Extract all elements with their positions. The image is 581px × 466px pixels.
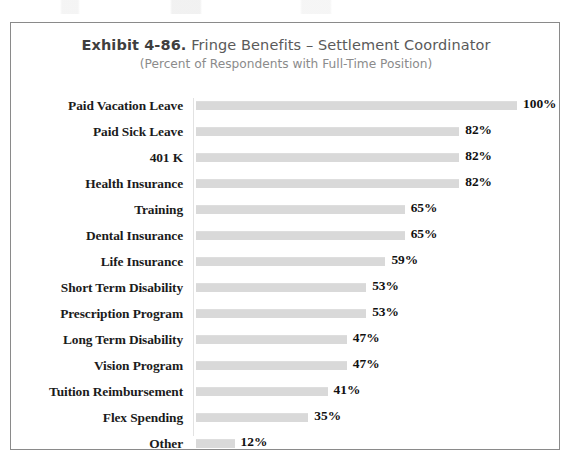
bar-row: 401 K82% xyxy=(11,145,561,171)
bar-row: Dental Insurance65% xyxy=(11,223,561,249)
bar-fill xyxy=(196,127,459,136)
bar-row: Health Insurance82% xyxy=(11,171,561,197)
bar-category-label: Life Insurance xyxy=(11,254,189,270)
bar-fill xyxy=(196,205,405,214)
bar-value-label: 12% xyxy=(241,434,268,450)
scan-artifact-strip xyxy=(0,0,581,14)
bar-row: Short Term Disability53% xyxy=(11,275,561,301)
chart-frame: Exhibit 4-86. Fringe Benefits – Settleme… xyxy=(10,22,560,450)
bar-rows-container: Paid Vacation Leave100%Paid Sick Leave82… xyxy=(11,93,561,457)
bar-value-label: 65% xyxy=(411,200,438,216)
bar-value-label: 59% xyxy=(391,252,418,268)
bar-track: 35% xyxy=(189,405,561,431)
bar-fill xyxy=(196,439,235,448)
bar-value-label: 100% xyxy=(523,96,556,112)
bar-fill xyxy=(196,231,405,240)
bar-fill xyxy=(196,153,459,162)
bar-value-label: 41% xyxy=(334,382,361,398)
bar-value-label: 82% xyxy=(465,148,492,164)
bar-row: Paid Sick Leave82% xyxy=(11,119,561,145)
page-title: Exhibit 4-86. Fringe Benefits – Settleme… xyxy=(11,37,561,53)
bar-fill xyxy=(196,335,347,344)
bar-value-label: 65% xyxy=(411,226,438,242)
bar-category-label: Prescription Program xyxy=(11,306,189,322)
bar-row: Long Term Disability47% xyxy=(11,327,561,353)
bar-track: 59% xyxy=(189,249,561,275)
plot-area: Paid Vacation Leave100%Paid Sick Leave82… xyxy=(11,93,561,445)
bar-category-label: 401 K xyxy=(11,150,189,166)
bar-category-label: Tuition Reimbursement xyxy=(11,384,189,400)
title-text: Fringe Benefits – Settlement Coordinator xyxy=(186,37,490,53)
bar-row: Flex Spending35% xyxy=(11,405,561,431)
bar-row: Other12% xyxy=(11,431,561,457)
bar-category-label: Training xyxy=(11,202,189,218)
bar-row: Tuition Reimbursement41% xyxy=(11,379,561,405)
bar-row: Paid Vacation Leave100% xyxy=(11,93,561,119)
bar-track: 47% xyxy=(189,327,561,353)
bar-value-label: 82% xyxy=(465,122,492,138)
bar-category-label: Other xyxy=(11,436,189,452)
bar-fill xyxy=(196,387,328,396)
bar-row: Training65% xyxy=(11,197,561,223)
bar-track: 82% xyxy=(189,145,561,171)
bar-category-label: Dental Insurance xyxy=(11,228,189,244)
bar-fill xyxy=(196,101,517,110)
bar-track: 82% xyxy=(189,119,561,145)
bar-value-label: 82% xyxy=(465,174,492,190)
bar-track: 41% xyxy=(189,379,561,405)
bar-row: Prescription Program53% xyxy=(11,301,561,327)
bar-fill xyxy=(196,179,459,188)
bar-fill xyxy=(196,309,366,318)
bar-track: 47% xyxy=(189,353,561,379)
bar-track: 12% xyxy=(189,431,561,457)
bar-category-label: Paid Sick Leave xyxy=(11,124,189,140)
bar-category-label: Flex Spending xyxy=(11,410,189,426)
bar-track: 82% xyxy=(189,171,561,197)
bar-track: 100% xyxy=(189,93,561,119)
bar-value-label: 47% xyxy=(353,356,380,372)
bar-category-label: Vision Program xyxy=(11,358,189,374)
bar-category-label: Paid Vacation Leave xyxy=(11,98,189,114)
bar-value-label: 53% xyxy=(372,304,399,320)
bar-fill xyxy=(196,361,347,370)
bar-track: 53% xyxy=(189,301,561,327)
bar-track: 65% xyxy=(189,223,561,249)
bar-value-label: 53% xyxy=(372,278,399,294)
bar-category-label: Short Term Disability xyxy=(11,280,189,296)
bar-track: 65% xyxy=(189,197,561,223)
bar-value-label: 47% xyxy=(353,330,380,346)
chart-title-block: Exhibit 4-86. Fringe Benefits – Settleme… xyxy=(11,37,561,71)
bar-fill xyxy=(196,257,385,266)
bar-row: Life Insurance59% xyxy=(11,249,561,275)
bar-row: Vision Program47% xyxy=(11,353,561,379)
bar-value-label: 35% xyxy=(314,408,341,424)
bar-category-label: Health Insurance xyxy=(11,176,189,192)
bar-track: 53% xyxy=(189,275,561,301)
bar-fill xyxy=(196,283,366,292)
exhibit-number: Exhibit 4-86. xyxy=(81,37,186,53)
bar-fill xyxy=(196,413,308,422)
bar-category-label: Long Term Disability xyxy=(11,332,189,348)
chart-subtitle: (Percent of Respondents with Full-Time P… xyxy=(11,57,561,71)
